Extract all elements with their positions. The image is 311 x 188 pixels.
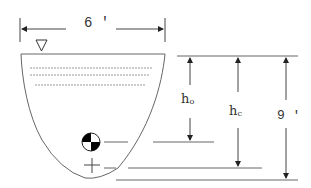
hc-subscript: c [237, 109, 242, 118]
gate-diagram: 6 ' ho hc [0, 0, 311, 188]
height-label: 9 ' [277, 108, 300, 123]
hc-dimension: hc [229, 58, 242, 166]
svg-text:ho: ho [181, 91, 194, 106]
svg-text:hc: hc [229, 103, 242, 118]
free-surface-icon [36, 40, 47, 51]
width-dimension: 6 ' [20, 15, 165, 42]
width-label: 6 ' [84, 15, 109, 31]
centroid-icon [82, 133, 100, 151]
ho-subscript: o [189, 97, 194, 106]
vessel-shape [21, 54, 165, 178]
height-dimension: 9 ' [277, 58, 300, 178]
ho-dimension: ho [181, 58, 194, 140]
